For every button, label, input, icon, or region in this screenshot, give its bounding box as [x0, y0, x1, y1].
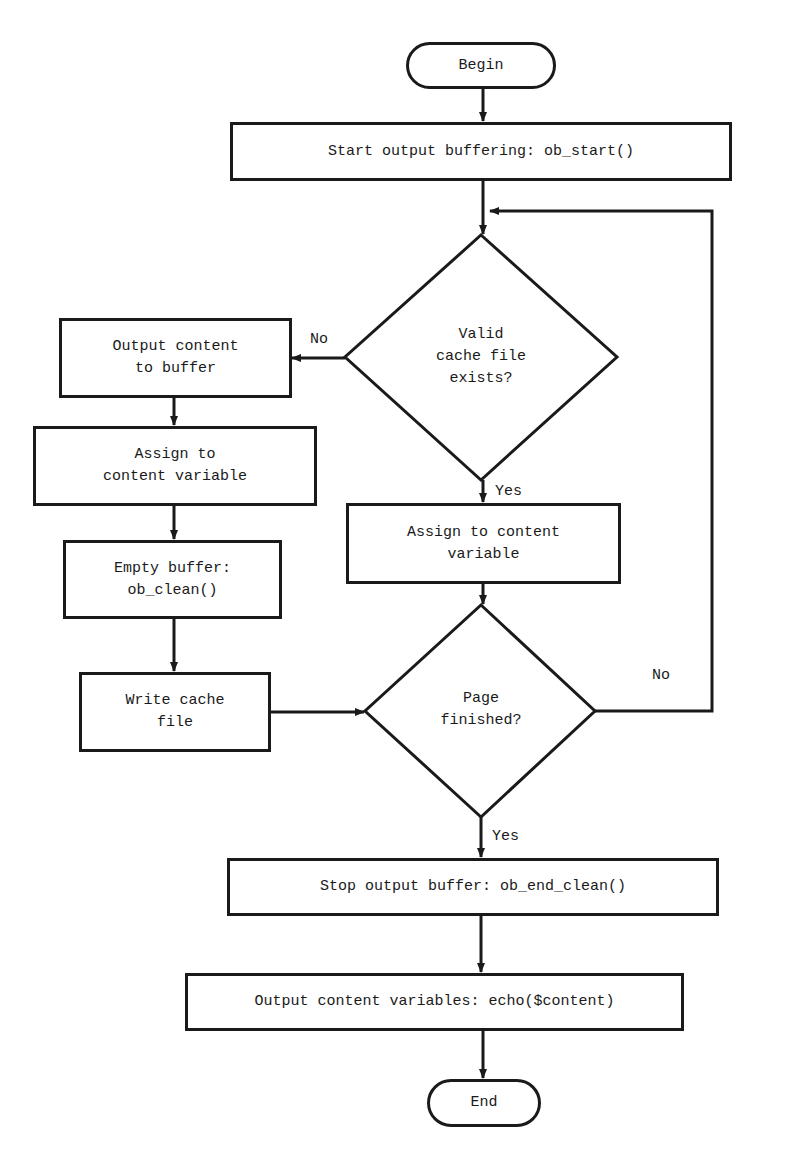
- assign-right-box: Assign to content variable: [346, 503, 621, 584]
- output-vars-box: Output content variables: echo($content): [185, 973, 684, 1031]
- start-buffering-label: Start output buffering: ob_start(): [328, 141, 634, 163]
- decision-page-text: Page finished?: [400, 680, 562, 740]
- end-terminal: End: [427, 1079, 541, 1127]
- assign-right-label: Assign to content variable: [407, 522, 560, 566]
- output-vars-label: Output content variables: echo($content): [254, 991, 614, 1013]
- decision-cache-text: Valid cache file exists?: [385, 317, 577, 397]
- decision-page-label: Page finished?: [440, 688, 521, 732]
- edge-label-page-yes: Yes: [492, 828, 519, 846]
- stop-buffer-label: Stop output buffer: ob_end_clean(): [320, 876, 626, 898]
- edge-label-cache-no: No: [310, 331, 328, 349]
- end-label: End: [470, 1092, 497, 1114]
- start-buffering-box: Start output buffering: ob_start(): [230, 122, 732, 181]
- begin-label: Begin: [458, 55, 503, 77]
- stop-buffer-box: Stop output buffer: ob_end_clean(): [227, 858, 719, 916]
- assign-left-label: Assign to content variable: [103, 444, 247, 488]
- write-cache-label: Write cache file: [125, 690, 224, 734]
- edge-label-cache-yes: Yes: [495, 483, 522, 501]
- assign-left-box: Assign to content variable: [33, 426, 317, 506]
- begin-terminal: Begin: [406, 42, 556, 89]
- empty-buffer-box: Empty buffer: ob_clean(): [63, 540, 282, 619]
- edge-label-page-no: No: [652, 667, 670, 685]
- decision-cache-label: Valid cache file exists?: [436, 324, 526, 390]
- output-to-buffer-box: Output content to buffer: [59, 318, 292, 398]
- empty-buffer-label: Empty buffer: ob_clean(): [114, 558, 231, 602]
- write-cache-box: Write cache file: [79, 672, 271, 752]
- output-to-buffer-label: Output content to buffer: [112, 336, 238, 380]
